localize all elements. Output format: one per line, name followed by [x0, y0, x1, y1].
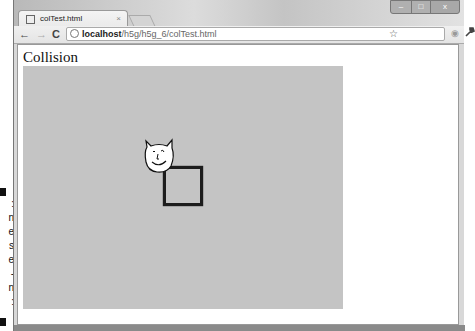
caption-marker — [0, 318, 6, 326]
forward-arrow-icon[interactable]: → — [36, 27, 47, 41]
window-frame-bottom — [14, 325, 465, 331]
game-canvas[interactable] — [23, 66, 343, 309]
reload-icon[interactable]: C — [52, 27, 60, 41]
minimize-button[interactable]: – — [390, 0, 412, 14]
back-arrow-icon[interactable]: ← — [19, 27, 30, 41]
caption-fragment: : — [0, 296, 14, 308]
page-icon — [26, 15, 35, 24]
url-path: /h5g/h5g_6/colTest.html — [122, 29, 217, 39]
close-window-button[interactable]: x — [430, 0, 460, 14]
browser-window: colTest.html × – □ x ← → C localhost/h5g… — [13, 0, 464, 331]
page-heading: Collision — [23, 49, 78, 66]
caption-fragment: - — [0, 268, 14, 280]
tab-title: colTest.html — [40, 14, 82, 23]
globe-icon — [70, 29, 79, 38]
url-host: localhost — [82, 29, 122, 39]
url-text[interactable]: localhost/h5g/h5g_6/colTest.html — [82, 28, 217, 40]
caption-fragment: n — [0, 282, 14, 294]
tab-close-icon[interactable]: × — [116, 14, 121, 23]
caption-marker — [0, 188, 6, 196]
book-margin: : n e s e - n : — [0, 0, 14, 331]
maximize-button[interactable]: □ — [411, 0, 431, 14]
address-bar[interactable]: localhost/h5g/h5g_6/colTest.html ☆ — [66, 27, 445, 41]
critter-sprite[interactable] — [142, 138, 176, 174]
caption-fragment: s — [0, 240, 14, 252]
caption-fragment: n — [0, 212, 14, 224]
caption-fragment: e — [0, 254, 14, 266]
bookmark-star-icon[interactable]: ☆ — [389, 28, 398, 40]
wrench-menu-icon[interactable] — [465, 27, 475, 39]
caption-fragment: : — [0, 198, 14, 210]
extension-icon[interactable]: ◉ — [451, 28, 459, 38]
caption-fragment: e — [0, 226, 14, 238]
browser-toolbar: ← → C localhost/h5g/h5g_6/colTest.html ☆… — [14, 26, 464, 44]
page-viewport: Collision — [17, 44, 459, 325]
